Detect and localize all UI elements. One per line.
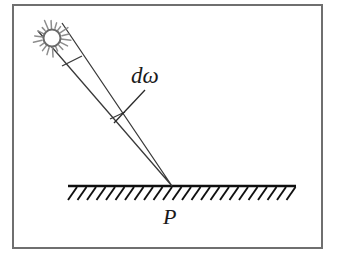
hatch-line bbox=[277, 187, 286, 200]
hatch-line bbox=[116, 187, 125, 200]
beam-outline bbox=[38, 23, 172, 186]
hatch-line bbox=[211, 187, 220, 200]
sun-ray bbox=[47, 48, 49, 55]
hatch-line bbox=[97, 187, 106, 200]
hatch-line bbox=[78, 187, 87, 200]
sun-ray bbox=[62, 34, 69, 36]
near-source-band bbox=[62, 56, 82, 66]
sun-ray bbox=[55, 23, 57, 28]
hatched-surface bbox=[68, 186, 296, 200]
sun-ray bbox=[61, 42, 68, 46]
hatch-line bbox=[125, 187, 134, 200]
sun-ray bbox=[33, 40, 42, 42]
hatch-line bbox=[201, 187, 210, 200]
sun-ray bbox=[59, 45, 63, 49]
beam-cross-bands bbox=[62, 56, 125, 119]
hatch-line bbox=[249, 187, 258, 200]
point-p-label: P bbox=[163, 206, 176, 228]
sun-ray bbox=[53, 48, 54, 57]
hatch-line bbox=[230, 187, 239, 200]
hatch-line bbox=[173, 187, 182, 200]
sun-icon bbox=[33, 21, 70, 57]
hatch-line bbox=[135, 187, 144, 200]
hatch-line bbox=[220, 187, 229, 200]
hatch-line bbox=[192, 187, 201, 200]
hatch-line bbox=[163, 187, 172, 200]
figure-canvas: dω P bbox=[0, 0, 349, 272]
sun-ray bbox=[42, 28, 45, 31]
sun-ray bbox=[43, 45, 47, 50]
hatch-line bbox=[182, 187, 191, 200]
sun-ray bbox=[61, 39, 71, 40]
sun-ray bbox=[35, 36, 43, 37]
hatch-line bbox=[287, 187, 296, 200]
hatch-line bbox=[68, 187, 77, 200]
sun-ray bbox=[40, 43, 44, 46]
sun-core bbox=[44, 30, 61, 47]
sun-ray bbox=[45, 21, 49, 30]
hatch-line bbox=[106, 187, 115, 200]
hatch-line bbox=[268, 187, 277, 200]
optics-diagram bbox=[0, 0, 349, 272]
hatch-line bbox=[87, 187, 96, 200]
sun-ray bbox=[56, 46, 58, 51]
hatch-line bbox=[258, 187, 267, 200]
hatch-line bbox=[154, 187, 163, 200]
hatch-line bbox=[144, 187, 153, 200]
hatch-line bbox=[239, 187, 248, 200]
light-beam-cone bbox=[38, 23, 172, 186]
sun-ray bbox=[57, 27, 60, 31]
solid-angle-label: dω bbox=[131, 64, 159, 87]
